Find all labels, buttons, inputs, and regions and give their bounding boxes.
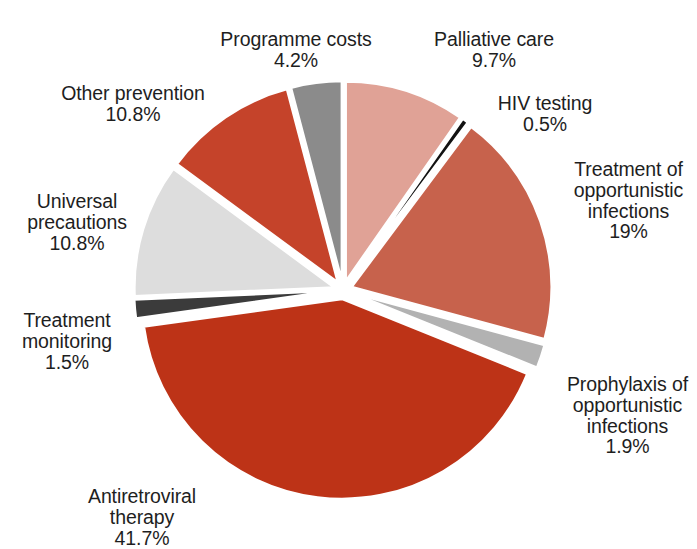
slice-label-name: Prophylaxis of opportunistic infections xyxy=(567,373,688,437)
slice-label-other-prevention: Other prevention 10.8% xyxy=(28,62,238,145)
slice-label-value: 9.7% xyxy=(404,50,584,71)
slice-label-value: 41.7% xyxy=(22,528,262,549)
slice-label-treatment-monitoring: Treatment monitoring 1.5% xyxy=(0,289,134,393)
slice-label-name: Programme costs xyxy=(220,28,371,50)
slice-label-universal-precautions: Universal precautions 10.8% xyxy=(2,170,152,274)
slice-label-value: 10.8% xyxy=(28,104,238,125)
slice-label-value: 10.8% xyxy=(2,233,152,254)
slice-label-name: Treatment of opportunistic infections xyxy=(574,158,683,222)
slice-label-value: 1.9% xyxy=(558,436,697,457)
slice-label-treatment-of-opportunistic-infections: Treatment of opportunistic infections 19… xyxy=(560,138,697,263)
slice-label-name: Other prevention xyxy=(61,82,205,104)
slice-label-name: Palliative care xyxy=(434,28,554,50)
slice-label-prophylaxis-of-opportunistic-infections: Prophylaxis of opportunistic infections … xyxy=(558,353,697,478)
slice-label-name: Treatment monitoring xyxy=(22,309,112,352)
slice-label-value: 1.5% xyxy=(0,352,134,373)
slice-label-antiretroviral-therapy: Antiretroviral therapy 41.7% xyxy=(22,465,262,549)
slice-label-value: 19% xyxy=(560,221,697,242)
slice-label-name: HIV testing xyxy=(498,92,592,114)
slice-label-name: Antiretroviral therapy xyxy=(88,485,196,528)
slice-label-value: 0.5% xyxy=(470,114,620,135)
slice-label-name: Universal precautions xyxy=(27,190,127,233)
